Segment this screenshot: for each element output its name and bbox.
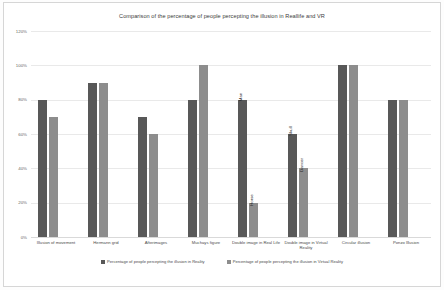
category-label: Muchays figure bbox=[181, 240, 231, 245]
bar[interactable] bbox=[388, 100, 397, 237]
bar[interactable] bbox=[88, 83, 97, 238]
category-label: Illusion of movement bbox=[31, 240, 81, 245]
y-axis-tick-label: 100% bbox=[3, 63, 27, 68]
legend-item-reality: Percentage of people percepting the illu… bbox=[101, 259, 205, 264]
gridline-0% bbox=[31, 237, 431, 238]
bar-annotation-label: Skull bbox=[288, 126, 293, 135]
legend-label-virtual-reality: Percentage of people percepting the illu… bbox=[233, 259, 343, 264]
bar-group: SkullDancer bbox=[281, 31, 331, 237]
bar[interactable] bbox=[38, 100, 47, 237]
bar-group bbox=[381, 31, 431, 237]
legend-item-virtual-reality: Percentage of people percepting the illu… bbox=[227, 259, 343, 264]
y-axis-tick-label: 120% bbox=[3, 29, 27, 34]
chart-page: Comparison of the percentage of people p… bbox=[0, 0, 444, 290]
bar[interactable] bbox=[288, 134, 297, 237]
bar-annotation-label: Dancer bbox=[299, 158, 304, 172]
category-label: Double image in Real Life bbox=[231, 240, 281, 245]
bar[interactable] bbox=[199, 65, 208, 237]
bar-annotation-label: Horse bbox=[249, 194, 254, 205]
bar[interactable] bbox=[249, 203, 258, 237]
page-title: Comparison of the percentage of people p… bbox=[0, 13, 444, 19]
bar-group bbox=[31, 31, 81, 237]
category-label: Double image in Virtual Reality bbox=[281, 240, 331, 250]
bars-layer: ManHorseSkullDancer bbox=[31, 31, 431, 237]
bar-annotation-label: Man bbox=[238, 92, 243, 100]
y-axis-tick-label: 60% bbox=[3, 132, 27, 137]
bar[interactable] bbox=[49, 117, 58, 237]
bar[interactable] bbox=[299, 168, 308, 237]
bar-group: ManHorse bbox=[231, 31, 281, 237]
y-axis-tick-label: 40% bbox=[3, 166, 27, 171]
category-label: Hermann grid bbox=[81, 240, 131, 245]
bar[interactable] bbox=[349, 65, 358, 237]
bar[interactable] bbox=[149, 134, 158, 237]
bar[interactable] bbox=[238, 100, 247, 237]
bar-group bbox=[181, 31, 231, 237]
legend-label-reality: Percentage of people percepting the illu… bbox=[107, 259, 205, 264]
bar[interactable] bbox=[399, 100, 408, 237]
category-label: Circular illusion bbox=[331, 240, 381, 245]
bar[interactable] bbox=[138, 117, 147, 237]
y-axis-tick-label: 0% bbox=[3, 235, 27, 240]
category-label: Afterimages bbox=[131, 240, 181, 245]
y-axis-tick-label: 20% bbox=[3, 200, 27, 205]
bar[interactable] bbox=[188, 100, 197, 237]
category-label: Ponzo Illusion bbox=[381, 240, 431, 245]
bar-group bbox=[131, 31, 181, 237]
bar[interactable] bbox=[338, 65, 347, 237]
legend-swatch-icon-reality bbox=[101, 260, 105, 264]
y-axis-tick-label: 80% bbox=[3, 97, 27, 102]
category-axis: Illusion of movementHermann gridAfterima… bbox=[31, 240, 431, 256]
chart-legend: Percentage of people percepting the illu… bbox=[0, 259, 444, 264]
bar[interactable] bbox=[99, 83, 108, 238]
legend-swatch-icon-virtual-reality bbox=[227, 260, 231, 264]
bar-group bbox=[331, 31, 381, 237]
bar-group bbox=[81, 31, 131, 237]
